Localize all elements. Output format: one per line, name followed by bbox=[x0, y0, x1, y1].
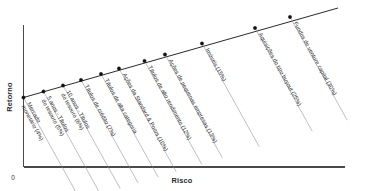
point-label-line: Ações de pequenas empresas (13%) bbox=[168, 58, 219, 144]
data-point-marker bbox=[61, 84, 64, 87]
data-point-marker bbox=[253, 26, 256, 29]
data-point-marker bbox=[288, 15, 291, 18]
y-axis-title: Retorno bbox=[5, 82, 14, 112]
origin-label: 0 bbox=[11, 174, 15, 181]
point-label: Imóveis (15%) bbox=[205, 47, 228, 82]
data-point-marker bbox=[117, 67, 120, 70]
point-label: Aquisições do tipo buyout (25%) bbox=[258, 32, 303, 107]
point-label: Ações de pequenas empresas (13%) bbox=[168, 58, 219, 144]
data-point-marker bbox=[79, 78, 82, 81]
point-label-line: Imóveis (15%) bbox=[205, 47, 228, 82]
risk-return-chart: Retorno Risco 0 Mercadomonetário (4%)5 a… bbox=[0, 0, 377, 191]
data-point-marker bbox=[22, 96, 25, 99]
point-label-line: Fundos de venture capital (30%) bbox=[293, 21, 339, 97]
point-label-line: Aquisições do tipo buyout (25%) bbox=[258, 32, 303, 107]
data-point-marker bbox=[200, 42, 203, 45]
x-axis-title: Risco bbox=[172, 176, 193, 185]
data-point-marker bbox=[42, 90, 45, 93]
data-point-marker bbox=[143, 59, 146, 62]
point-label: Fundos de venture capital (30%) bbox=[293, 21, 339, 97]
chart-figure: Retorno Risco 0 Mercadomonetário (4%)5 a… bbox=[0, 0, 377, 191]
data-points-layer: Mercadomonetário (4%)5 anos - Títulosdo … bbox=[21, 15, 348, 191]
data-point-marker bbox=[99, 72, 102, 75]
data-point-marker bbox=[163, 53, 166, 56]
